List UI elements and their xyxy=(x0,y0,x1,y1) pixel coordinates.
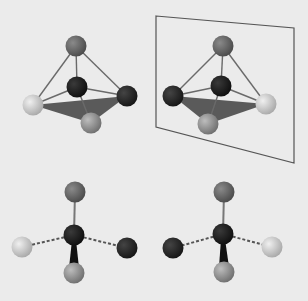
atom-bottom-mid xyxy=(64,263,85,284)
original-molecule-3d xyxy=(23,36,138,134)
atom-left-dark xyxy=(163,238,184,259)
atom-bottom-mid xyxy=(214,262,235,283)
atom-center xyxy=(67,77,88,98)
atom-front-mid xyxy=(198,114,219,135)
mirror-molecule-projection xyxy=(163,182,283,283)
atom-center xyxy=(213,224,234,245)
atom-right-light xyxy=(256,94,277,115)
original-molecule-projection xyxy=(12,182,138,284)
base-face xyxy=(173,96,266,124)
atom-top xyxy=(214,182,235,203)
atom-top xyxy=(66,36,87,57)
atom-left-dark xyxy=(163,86,184,107)
mirror-molecule-3d xyxy=(163,36,277,135)
atom-top xyxy=(213,36,234,57)
atom-right-light xyxy=(262,237,283,258)
atom-right-dark xyxy=(117,86,138,107)
atom-left-light xyxy=(23,95,44,116)
atom-front-mid xyxy=(81,113,102,134)
atom-left-light xyxy=(12,237,33,258)
chirality-diagram xyxy=(0,0,308,301)
atom-top xyxy=(65,182,86,203)
atom-center xyxy=(211,76,232,97)
atom-center xyxy=(64,225,85,246)
atom-right-dark xyxy=(117,238,138,259)
base-face xyxy=(33,96,127,123)
